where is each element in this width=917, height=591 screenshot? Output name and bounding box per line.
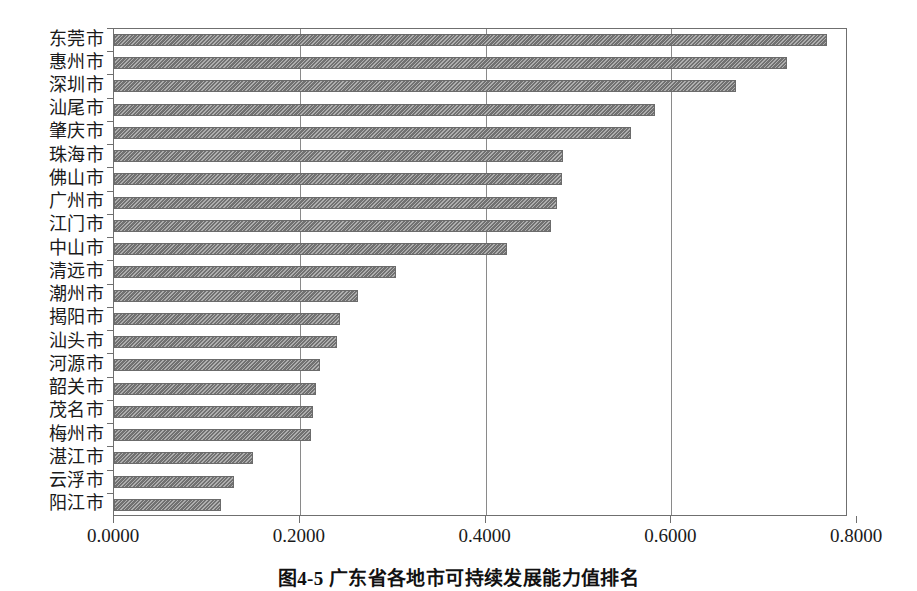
bar-row — [114, 29, 847, 52]
x-axis-tick — [670, 516, 671, 523]
y-axis-tick — [107, 446, 113, 447]
bar — [114, 452, 253, 464]
y-axis-tick — [107, 307, 113, 308]
y-axis-tick — [107, 121, 113, 122]
bar — [114, 104, 655, 116]
bar-row — [114, 168, 847, 191]
y-axis-tick — [107, 214, 113, 215]
y-axis-tick — [107, 98, 113, 99]
bar-row — [114, 261, 847, 284]
y-axis-label: 佛山市 — [49, 167, 105, 190]
bar — [114, 220, 551, 232]
x-axis-tick — [485, 516, 486, 523]
y-axis-tick — [107, 74, 113, 75]
bar — [114, 406, 313, 418]
y-axis-tick — [107, 353, 113, 354]
bar-row — [114, 75, 847, 98]
y-axis-tick — [107, 260, 113, 261]
bar-row — [114, 52, 847, 75]
bar-row — [114, 494, 847, 516]
bar-row — [114, 285, 847, 308]
y-axis-label: 汕头市 — [49, 330, 105, 353]
figure-caption: 图4-5 广东省各地市可持续发展能力值排名 — [0, 566, 917, 591]
bar — [114, 150, 563, 162]
bar — [114, 127, 631, 139]
y-axis-label: 珠海市 — [49, 144, 105, 167]
x-axis-tick-label: 0.4000 — [435, 524, 535, 548]
bar — [114, 476, 234, 488]
y-axis-tick — [107, 377, 113, 378]
bar-chart-figure: 东莞市惠州市深圳市汕尾市肇庆市珠海市佛山市广州市江门市中山市清远市潮州市揭阳市汕… — [0, 0, 917, 591]
y-axis-label: 云浮市 — [49, 469, 105, 492]
x-axis-tick-label: 0.8000 — [806, 524, 906, 548]
bar-row — [114, 401, 847, 424]
y-axis-label: 东莞市 — [49, 28, 105, 51]
bar — [114, 499, 221, 511]
y-axis-label: 广州市 — [49, 190, 105, 213]
y-axis-label: 梅州市 — [49, 423, 105, 446]
y-axis-tick — [107, 330, 113, 331]
bar-row — [114, 354, 847, 377]
x-axis-tick-label: 0.0000 — [63, 524, 163, 548]
bar-row — [114, 331, 847, 354]
bar — [114, 80, 736, 92]
bar — [114, 429, 311, 441]
bar-row — [114, 192, 847, 215]
plot-area — [113, 28, 847, 516]
y-axis-tick — [107, 400, 113, 401]
y-axis-label: 汕尾市 — [49, 97, 105, 120]
y-axis-label: 惠州市 — [49, 51, 105, 74]
bar-row — [114, 99, 847, 122]
y-axis-tick — [107, 284, 113, 285]
y-axis-label: 阳江市 — [49, 492, 105, 515]
bar-row — [114, 308, 847, 331]
x-axis-tick — [299, 516, 300, 523]
x-axis-tick — [113, 516, 114, 523]
bar-row — [114, 122, 847, 145]
bar — [114, 359, 320, 371]
x-axis-tick-label: 0.2000 — [249, 524, 349, 548]
bar-row — [114, 215, 847, 238]
y-axis-tick — [107, 191, 113, 192]
y-axis-label: 揭阳市 — [49, 306, 105, 329]
bar — [114, 313, 340, 325]
y-axis-label: 江门市 — [49, 213, 105, 236]
y-axis-label: 深圳市 — [49, 74, 105, 97]
y-axis-label: 潮州市 — [49, 283, 105, 306]
y-axis-tick — [107, 28, 113, 29]
y-axis-tick — [107, 144, 113, 145]
y-axis-label: 湛江市 — [49, 446, 105, 469]
bar — [114, 34, 827, 46]
y-axis-tick — [107, 493, 113, 494]
y-axis-tick — [107, 423, 113, 424]
bar-row — [114, 378, 847, 401]
bar — [114, 197, 557, 209]
y-axis-tick — [107, 237, 113, 238]
bar — [114, 243, 507, 255]
bar — [114, 290, 358, 302]
y-axis-tick — [107, 51, 113, 52]
y-axis-label: 中山市 — [49, 237, 105, 260]
bar-row — [114, 447, 847, 470]
x-axis-tick — [856, 516, 857, 523]
x-axis-tick-label: 0.6000 — [620, 524, 720, 548]
y-axis-tick — [107, 167, 113, 168]
bar-row — [114, 471, 847, 494]
bar-row — [114, 238, 847, 261]
bar — [114, 57, 787, 69]
y-axis-label: 韶关市 — [49, 376, 105, 399]
y-axis-tick — [107, 470, 113, 471]
bar-row — [114, 424, 847, 447]
bar — [114, 266, 396, 278]
y-axis-label: 河源市 — [49, 353, 105, 376]
bar — [114, 336, 337, 348]
y-axis-label: 清远市 — [49, 260, 105, 283]
y-axis-label: 茂名市 — [49, 399, 105, 422]
bar — [114, 383, 316, 395]
y-axis-label: 肇庆市 — [49, 120, 105, 143]
bar-row — [114, 145, 847, 168]
bar — [114, 173, 562, 185]
